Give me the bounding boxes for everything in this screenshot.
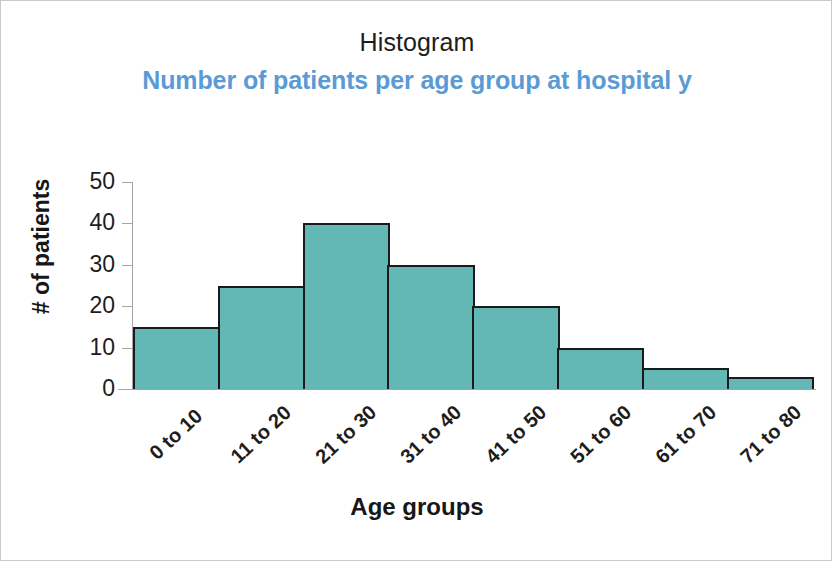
y-axis-tick-mark [122,265,133,266]
y-axis-tick-mark [122,389,133,390]
y-axis-tick-label: 0 [63,377,115,400]
y-axis-tick-label: 40 [63,211,115,234]
x-axis-tick-label: 21 to 30 [311,401,381,469]
x-axis-tick-label-cell: 21 to 30 [303,393,388,488]
bar[interactable] [642,368,729,389]
x-axis-tick-label-cell: 51 to 60 [559,393,644,488]
x-axis-tick-label: 11 to 20 [226,401,295,468]
x-axis-tick-label: 61 to 70 [651,401,721,469]
y-axis-tick-label: 10 [63,336,115,359]
chart-subtitle: Number of patients per age group at hosp… [1,63,832,98]
bar[interactable] [472,306,559,389]
y-axis-tick-label: 20 [63,294,115,317]
x-axis-tick-label-cell: 0 to 10 [133,393,218,488]
x-axis-tick-label: 71 to 80 [736,401,806,469]
y-axis-tick-labels: 01020304050 [59,1,115,561]
y-axis-tick-mark [122,306,133,307]
x-axis-tick-label: 51 to 60 [566,401,636,469]
y-axis-tick-mark [122,182,133,183]
x-axis-tick-label: 0 to 10 [145,404,207,464]
bar[interactable] [387,265,474,389]
chart-title-block: Histogram Number of patients per age gro… [1,27,832,98]
x-axis-tick-label: 31 to 40 [396,401,466,469]
x-axis-tick-label-cell: 31 to 40 [388,393,473,488]
x-axis-tick-label-cell: 71 to 80 [729,393,814,488]
chart-title: Histogram [1,27,832,57]
histogram-chart: Histogram Number of patients per age gro… [0,0,832,561]
y-axis-tick-mark [122,348,133,349]
y-axis-tick-label: 50 [63,170,115,193]
bar[interactable] [218,286,305,390]
y-axis-tick-label: 30 [63,253,115,276]
x-axis-title: Age groups [1,493,832,521]
bar[interactable] [557,348,644,389]
bar[interactable] [133,327,220,389]
x-axis-tick-label-cell: 11 to 20 [218,393,303,488]
x-axis-line [118,389,816,390]
bar-series [133,182,814,389]
bar[interactable] [727,377,814,389]
x-axis-tick-labels: 0 to 1011 to 2021 to 3031 to 4041 to 505… [133,393,814,488]
x-axis-tick-label-cell: 41 to 50 [474,393,559,488]
y-axis-tick-mark [122,223,133,224]
x-axis-tick-label: 41 to 50 [481,401,551,469]
y-axis-title: # of patients [28,152,55,342]
x-axis-tick-label-cell: 61 to 70 [644,393,729,488]
bar[interactable] [303,223,390,389]
